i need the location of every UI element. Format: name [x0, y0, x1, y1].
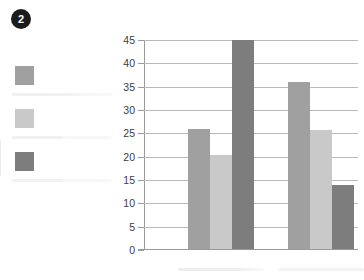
y-axis — [144, 40, 145, 250]
legend-item[interactable] — [0, 60, 120, 103]
bar[interactable] — [232, 40, 254, 249]
y-axis-tick-label: 35 — [123, 81, 135, 92]
y-axis-tick — [138, 63, 144, 64]
x-axis — [138, 249, 358, 250]
legend-swatch-series-1 — [15, 66, 34, 85]
y-axis-tick — [138, 227, 144, 228]
legend-label-placeholder — [12, 136, 113, 139]
numbered-badge-icon: 2 — [11, 9, 31, 29]
legend-item[interactable] — [0, 146, 120, 189]
y-axis-tick-label: 30 — [123, 105, 135, 116]
legend-item[interactable] — [0, 103, 120, 146]
bar[interactable] — [288, 82, 310, 249]
y-axis-tick-label: 5 — [129, 221, 135, 232]
bar-chart: 051015202530354045 — [113, 30, 358, 280]
y-axis-tick — [138, 40, 144, 41]
y-axis-tick-label: 10 — [123, 198, 135, 209]
y-axis-tick-label: 45 — [123, 35, 135, 46]
legend-label-placeholder — [12, 93, 113, 96]
y-axis-tick-label: 15 — [123, 175, 135, 186]
bar[interactable] — [332, 185, 354, 249]
y-axis-tick-label: 40 — [123, 58, 135, 69]
y-axis-tick-label: 0 — [129, 245, 135, 256]
y-axis-tick-label: 25 — [123, 128, 135, 139]
y-axis-tick — [138, 133, 144, 134]
y-axis-tick — [138, 250, 144, 251]
y-axis-tick — [138, 203, 144, 204]
x-category-label-placeholder — [178, 268, 264, 271]
x-category-label-placeholder — [278, 268, 364, 271]
y-axis-tick — [138, 180, 144, 181]
legend-label-placeholder — [12, 179, 113, 182]
chart-legend — [0, 60, 120, 189]
legend-swatch-series-2 — [15, 109, 34, 128]
y-axis-tick — [138, 157, 144, 158]
bar[interactable] — [188, 129, 210, 249]
y-axis-tick-label: 20 — [123, 151, 135, 162]
plot-area: 051015202530354045 — [144, 40, 358, 250]
legend-swatch-series-3 — [15, 152, 34, 171]
bar[interactable] — [210, 155, 232, 249]
y-axis-tick — [138, 110, 144, 111]
y-axis-tick — [138, 87, 144, 88]
bar[interactable] — [310, 130, 332, 249]
